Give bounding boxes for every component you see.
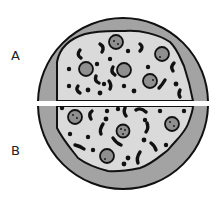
olive — [98, 91, 103, 96]
olive — [60, 106, 64, 110]
olive — [146, 65, 150, 69]
olive — [116, 107, 120, 111]
olive — [122, 162, 127, 167]
olive — [164, 143, 168, 147]
olive — [108, 57, 112, 61]
pepper-strip — [109, 81, 111, 89]
pepper-strip — [124, 108, 126, 116]
olive — [174, 82, 179, 87]
olive — [91, 148, 95, 152]
pepper-strip — [179, 90, 180, 97]
olive — [105, 109, 109, 113]
pepperoni — [109, 35, 123, 49]
pizza-diagram: .crust { fill: #a3a3a3; } .cheese { fill… — [0, 0, 223, 207]
olive — [86, 88, 91, 93]
olive — [126, 49, 130, 53]
pepperoni — [117, 63, 131, 77]
olive — [102, 82, 106, 86]
olive — [122, 84, 126, 88]
olive — [68, 132, 72, 136]
olive — [142, 138, 147, 143]
pepperoni — [143, 74, 157, 88]
olive — [95, 62, 99, 66]
pepperoni — [79, 62, 93, 76]
olive — [67, 84, 71, 88]
pepperoni — [155, 47, 169, 61]
pepperoni — [165, 117, 179, 131]
olive — [126, 156, 131, 161]
pepper-strip — [140, 44, 142, 51]
olive — [158, 109, 162, 113]
pepperoni — [68, 110, 82, 124]
olive — [132, 89, 137, 94]
olive — [67, 67, 71, 71]
pepperoni — [100, 149, 114, 163]
pepperoni — [117, 125, 130, 138]
pepper-strip — [146, 123, 148, 132]
olive — [86, 135, 90, 139]
olive — [182, 109, 186, 113]
olive — [104, 117, 109, 122]
